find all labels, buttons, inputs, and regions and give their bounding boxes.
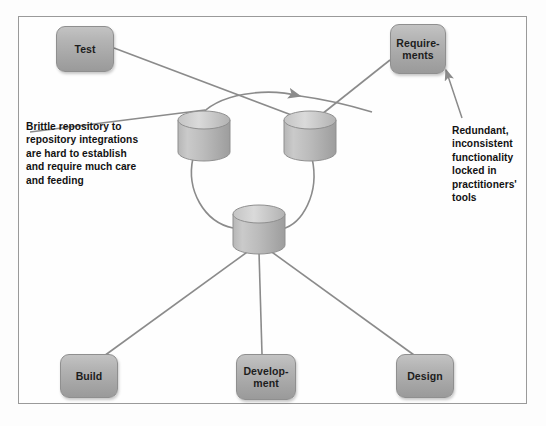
node-design[interactable]: Design	[396, 354, 454, 398]
node-development[interactable]: Develop- ment	[236, 354, 296, 400]
diagram-canvas: Test Require- ments Build Develop- ment …	[0, 0, 546, 426]
node-test-label: Test	[74, 43, 95, 56]
annotation-redundant-functionality: Redundant, inconsistent functionality lo…	[452, 124, 534, 204]
node-test[interactable]: Test	[56, 26, 114, 72]
node-development-label: Develop- ment	[243, 365, 288, 390]
node-build[interactable]: Build	[60, 354, 118, 398]
node-requirements-label: Require- ments	[396, 37, 439, 62]
annotation-brittle-repository: Brittle repository to repository integra…	[26, 120, 188, 187]
diagram-frame	[18, 16, 527, 404]
node-design-label: Design	[407, 370, 443, 383]
node-build-label: Build	[76, 370, 103, 383]
node-requirements[interactable]: Require- ments	[390, 24, 446, 74]
